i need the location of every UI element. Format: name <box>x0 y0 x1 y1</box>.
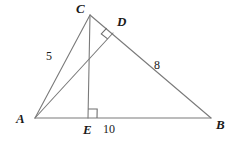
vertex-label-e: E <box>83 123 92 136</box>
vertex-label-a: A <box>16 112 25 125</box>
altitudes <box>35 15 113 118</box>
geometry-figure: A B C D E 5 8 10 <box>0 0 232 144</box>
vertex-label-d: D <box>117 15 126 28</box>
segment-cb <box>90 15 211 118</box>
side-length-ac: 5 <box>46 50 52 62</box>
side-length-db: 8 <box>154 59 160 71</box>
segment-ce-altitude <box>88 15 90 118</box>
vertex-label-b: B <box>216 118 225 131</box>
triangle-outline <box>35 15 211 118</box>
vertex-label-c: C <box>76 2 85 15</box>
side-length-eb: 10 <box>103 123 115 135</box>
geometry-canvas <box>0 0 232 144</box>
right-angle-mark-e <box>88 109 97 118</box>
